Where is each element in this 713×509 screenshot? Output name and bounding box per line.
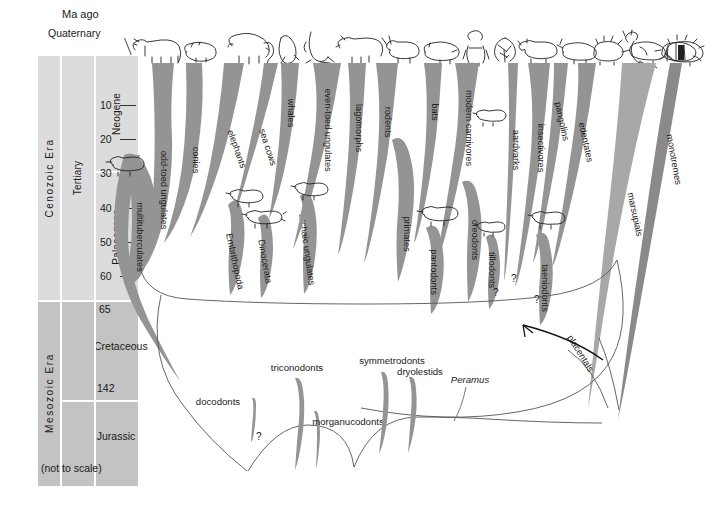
peramus-stem xyxy=(454,387,466,421)
label-peramus: Peramus xyxy=(451,374,490,385)
aardvark-icon xyxy=(557,39,596,64)
label-conies: conies xyxy=(191,147,201,174)
wedge-whales xyxy=(269,63,299,219)
hedgehog-icon xyxy=(594,36,623,65)
label-whales: whales xyxy=(286,98,296,128)
wedge-lagomorphs xyxy=(338,63,366,255)
rabbit-icon xyxy=(382,36,419,63)
label-aardvarks: aardvarks xyxy=(511,130,521,171)
label-insectivores: insectivores xyxy=(536,124,546,173)
label-morganucodonts: morganucodonts xyxy=(312,416,384,427)
label-modern-carnivores: modern carnivores xyxy=(464,90,474,166)
question-mark-tillodonts: ? xyxy=(493,287,499,298)
hyrax-icon xyxy=(185,42,217,62)
taeniodont-fossil-icon xyxy=(528,212,565,230)
primate-icon xyxy=(463,31,489,66)
label-creodonts: creodonts xyxy=(470,220,480,261)
label-monotremes: monotremes xyxy=(665,133,684,185)
rhinoceros-icon xyxy=(133,39,181,63)
elephant-icon xyxy=(228,33,274,65)
wedge-aardvarks xyxy=(504,63,518,281)
creodont-fossil-icon xyxy=(473,110,506,126)
label-odd-toed-ungulates: odd-toed ungulates xyxy=(159,151,169,230)
label-lagomorphs: lagomorphs xyxy=(354,104,364,152)
wedge-rodents xyxy=(364,63,398,263)
label-dryolestids: dryolestids xyxy=(397,366,443,377)
bison-icon xyxy=(336,36,383,63)
label-sea-cows: sea cows xyxy=(257,127,278,167)
label-elephants: elephants xyxy=(225,129,248,170)
top-icons-row xyxy=(133,30,704,68)
mesozoic-lineages: docodonts ? triconodonts morganucodonts … xyxy=(196,355,490,470)
label-taeniodonts: taeniodonts xyxy=(540,264,550,312)
sea-cow-icon xyxy=(279,36,299,64)
question-mark-insectivores: ? xyxy=(534,294,540,305)
wedge-primates xyxy=(392,138,414,282)
phylogeny-diagram-root: Ma ago Quaternary Cenozoic Era Mesozoic … xyxy=(0,0,713,509)
label-marsupials: marsupials xyxy=(625,192,644,238)
wedge-symmetrodonts xyxy=(379,372,389,454)
phylogeny-svg: multituberculates odd-toed ungulates con… xyxy=(0,0,713,509)
whale-icon xyxy=(304,32,334,63)
label-triconodonts: triconodonts xyxy=(271,362,323,373)
bat-icon xyxy=(495,38,516,62)
label-bats: bats xyxy=(430,103,440,121)
question-mark-aardvarks: ? xyxy=(511,273,517,284)
wedge-triconodonts xyxy=(295,378,304,470)
label-placentals: placentals xyxy=(565,333,596,374)
label-rodents: rodents xyxy=(383,107,393,138)
mesozoic-baseline-left xyxy=(157,295,247,471)
label-tillodonts: tillodonts xyxy=(487,252,497,289)
rodent-icon xyxy=(424,42,459,64)
question-mark-docodonts: ? xyxy=(256,431,262,442)
placentals-arrow: placentals xyxy=(523,325,603,374)
wedge-bats xyxy=(414,63,442,243)
label-symmetrodonts: symmetrodonts xyxy=(359,355,425,366)
label-multituberculates: multituberculates xyxy=(135,202,145,272)
mesozoic-lower-right xyxy=(354,417,602,467)
label-even-toed-ungulates: even-toed ungulates xyxy=(323,88,333,172)
label-primates: primates xyxy=(402,216,412,252)
bear-icon xyxy=(518,39,557,64)
label-docodonts: docodonts xyxy=(196,396,240,407)
